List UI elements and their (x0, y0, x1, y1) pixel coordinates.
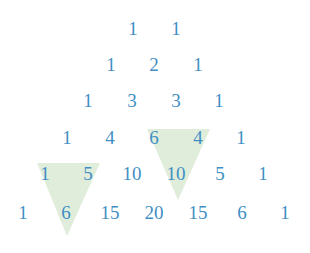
cell-r4-c2: 10 (123, 164, 142, 183)
cell-r4-c4: 5 (215, 164, 225, 183)
cell-r2-c3: 1 (214, 91, 224, 110)
pascal-triangle-diagram: 1 1 1 2 1 1 3 3 1 1 4 6 4 1 1 5 10 10 5 … (0, 0, 310, 253)
cell-r2-c1: 3 (127, 91, 137, 110)
cell-r2-c0: 1 (83, 91, 93, 110)
cell-r2-c2: 3 (171, 91, 181, 110)
cell-r3-c0: 1 (62, 128, 72, 147)
cell-r5-c4: 15 (189, 203, 208, 222)
cell-r5-c5: 6 (237, 203, 247, 222)
cell-r0-c1: 1 (171, 19, 181, 38)
cell-r5-c1: 6 (61, 203, 71, 222)
cell-r5-c3: 20 (145, 203, 164, 222)
cell-r5-c6: 1 (280, 203, 290, 222)
cell-r4-c0: 1 (40, 164, 50, 183)
cell-r3-c2: 6 (149, 128, 159, 147)
cell-r0-c0: 1 (128, 19, 138, 38)
cell-r3-c3: 4 (193, 128, 203, 147)
cell-r5-c0: 1 (18, 203, 28, 222)
cell-r1-c2: 1 (193, 55, 203, 74)
cell-r1-c1: 2 (149, 55, 159, 74)
cell-r4-c1: 5 (83, 164, 93, 183)
cell-r3-c4: 1 (236, 128, 246, 147)
cell-r3-c1: 4 (105, 128, 115, 147)
cell-r1-c0: 1 (106, 55, 116, 74)
cell-r4-c3: 10 (167, 164, 186, 183)
cell-r5-c2: 15 (101, 203, 120, 222)
cell-r4-c5: 1 (258, 164, 268, 183)
